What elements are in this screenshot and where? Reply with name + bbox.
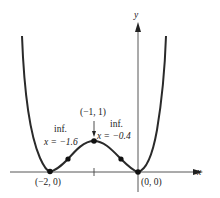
max-pointer-arrow-icon [92,131,96,137]
label-inflection-right-title: inf. [110,119,123,129]
y-axis-label: y [133,10,139,20]
function-graph: y x (−1, 1) (−2, 0) (0, 0) inf. x = −1.6… [0,0,220,198]
label-min-left: (−2, 0) [35,177,61,188]
point-min-right [135,169,141,175]
label-min-right: (0, 0) [141,177,162,188]
x-axis-label: x [196,167,202,177]
label-inflection-left-title: inf. [54,124,67,134]
point-inflection-right [118,156,123,161]
point-min-left [47,169,53,175]
curve [22,36,166,172]
point-inflection-left [65,156,70,161]
y-axis-arrow-icon [135,22,141,32]
label-inflection-right-x: x = −0.4 [96,131,131,141]
point-max [91,138,97,144]
label-inflection-left-x: x = −1.6 [43,137,78,147]
label-max: (−1, 1) [80,107,106,118]
